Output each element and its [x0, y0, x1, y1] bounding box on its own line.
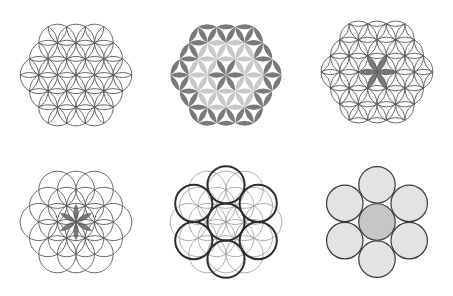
petal [235, 56, 254, 61]
petal-field [170, 24, 282, 126]
petal [226, 40, 245, 45]
petal [245, 40, 264, 45]
petal [254, 89, 273, 94]
petal [189, 73, 208, 78]
petal [263, 73, 282, 78]
seven-circle-packing-figure [327, 167, 428, 278]
petal [254, 56, 273, 61]
petal [180, 89, 199, 94]
petal [217, 121, 236, 126]
bold-circle [207, 166, 244, 203]
petal [235, 121, 254, 126]
petal [198, 24, 217, 29]
flower-of-life-shaded-figure [170, 24, 282, 126]
seed-overlay-figure [170, 166, 282, 278]
petal [170, 73, 189, 78]
outer-circle [391, 222, 427, 258]
petal [235, 89, 254, 94]
petal [207, 105, 226, 110]
petal [207, 73, 226, 78]
petal [245, 73, 264, 78]
outer-circle [391, 185, 427, 221]
outer-circle [327, 222, 363, 258]
petal [235, 24, 254, 29]
bold-circle [207, 241, 244, 278]
flower-of-life-outline-figure [2, 8, 151, 142]
outer-circle [359, 241, 395, 277]
flower-of-life-center-highlight-figure [20, 171, 132, 273]
petal [189, 105, 208, 110]
petal [226, 105, 245, 110]
extended-petal-pattern-figure [321, 21, 433, 123]
petal [198, 56, 217, 61]
outer-circle [359, 167, 395, 203]
petal [217, 24, 236, 29]
center-circle [359, 204, 395, 240]
petal [198, 89, 217, 94]
petal [226, 73, 245, 78]
petal [198, 121, 217, 126]
petal [207, 40, 226, 45]
petal [245, 105, 264, 110]
outer-circle [327, 185, 363, 221]
petal [217, 89, 236, 94]
petal [189, 40, 208, 45]
figure-panel [0, 0, 453, 296]
